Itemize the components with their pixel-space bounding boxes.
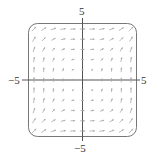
arrowhead-icon [83,28,85,30]
arrowhead-icon [130,87,132,89]
arrowhead-icon [33,67,35,69]
arrowhead-icon [93,28,95,30]
vector-field-plot [0,0,151,159]
arrowhead-icon [73,110,75,112]
arrowhead-icon [82,59,84,61]
arrowhead-icon [43,68,45,70]
arrowhead-icon [73,120,75,122]
arrowhead-icon [120,68,122,70]
arrowhead-icon [43,78,45,80]
y-min-label: −5 [74,143,86,154]
arrowhead-icon [111,78,113,80]
arrowhead-icon [93,130,95,132]
arrowhead-icon [92,48,94,50]
arrowhead-icon [111,68,113,70]
x-max-label: 5 [141,75,147,86]
arrowhead-icon [83,48,85,50]
arrowhead-icon [52,78,54,80]
arrowhead-icon [62,78,64,80]
y-max-label: 5 [79,6,85,17]
arrowhead-icon [33,77,35,79]
arrowhead-icon [83,130,85,132]
arrowhead-icon [101,78,103,80]
arrowhead-icon [130,77,132,79]
arrowhead-icon [73,38,75,40]
arrowhead-icon [74,28,76,30]
arrowhead-icon [130,67,132,69]
arrowhead-icon [83,38,85,40]
x-min-label: −5 [8,75,20,86]
arrowhead-icon [92,110,94,112]
arrowhead-icon [74,130,76,132]
arrowhead-icon [82,99,84,101]
arrowhead-icon [52,88,54,90]
arrowhead-icon [120,88,122,90]
arrowhead-icon [73,48,75,50]
arrowhead-icon [43,88,45,90]
arrowhead-icon [93,120,95,122]
arrowhead-icon [52,68,54,70]
arrowhead-icon [33,87,35,89]
arrowhead-icon [120,78,122,80]
arrowhead-icon [93,38,95,40]
arrowhead-icon [83,120,85,122]
arrowhead-icon [83,110,85,112]
arrowhead-icon [111,88,113,90]
